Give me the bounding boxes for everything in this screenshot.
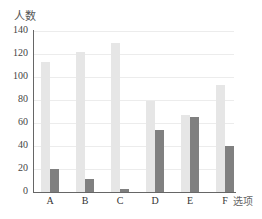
bar-e-series-2 <box>190 117 199 192</box>
bar-c-series-1 <box>111 43 120 193</box>
y-axis-label: 人数 <box>14 7 36 23</box>
x-tick-label: C <box>112 195 128 206</box>
gridline <box>34 77 234 78</box>
bar-f-series-2 <box>225 146 234 192</box>
gridline <box>34 123 234 124</box>
y-tick-label: 0 <box>4 185 28 196</box>
y-tick-label: 40 <box>4 139 28 150</box>
gridline <box>34 54 234 55</box>
x-tick-label: F <box>217 195 233 206</box>
gridline <box>34 100 234 101</box>
gridline <box>34 169 234 170</box>
bar-e-series-1 <box>181 115 190 192</box>
y-tick-label: 120 <box>4 47 28 58</box>
x-axis-line <box>33 192 236 193</box>
bar-f-series-1 <box>216 85 225 192</box>
x-tick-label: B <box>77 195 93 206</box>
bar-a-series-2 <box>50 169 59 192</box>
x-tick-label: E <box>182 195 198 206</box>
bar-a-series-1 <box>41 62 50 192</box>
x-tick-label: A <box>42 195 58 206</box>
x-axis-label: 选项 <box>233 193 253 208</box>
bar-d-series-1 <box>146 101 155 192</box>
y-tick-label: 140 <box>4 24 28 35</box>
y-tick-label: 20 <box>4 162 28 173</box>
bar-d-series-2 <box>155 130 164 192</box>
x-tick-label: D <box>147 195 163 206</box>
y-tick-label: 80 <box>4 93 28 104</box>
bar-chart: 人数 020406080100120140 ABCDEF 选项 <box>0 0 262 219</box>
gridline <box>34 31 234 32</box>
y-tick-label: 60 <box>4 116 28 127</box>
bar-b-series-2 <box>85 179 94 192</box>
bar-b-series-1 <box>76 52 85 192</box>
gridline <box>34 146 234 147</box>
y-tick-label: 100 <box>4 70 28 81</box>
y-axis-line <box>33 30 34 193</box>
